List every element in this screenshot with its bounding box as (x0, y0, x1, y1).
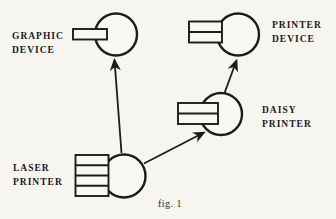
graphic-device-label: GRAPHIC DEVICE (12, 30, 64, 57)
graphic-device-port-bar (73, 29, 107, 40)
printer-device-label-line1: PRINTER (272, 19, 322, 33)
printer-device-label: PRINTER DEVICE (272, 19, 322, 46)
figure-canvas: GRAPHIC DEVICE PRINTER DEVICE DAISY PRIN… (0, 0, 336, 219)
graphic-device-label-line1: GRAPHIC (12, 30, 64, 44)
laser-printer-label-line1: LASER (13, 162, 63, 176)
laser-printer-label: LASER PRINTER (13, 162, 63, 189)
daisy-printer-label: DAISY PRINTER (262, 104, 312, 131)
edge-laser-to-daisy-arrow (144, 133, 204, 164)
daisy-printer-port-bars (178, 103, 218, 124)
daisy-printer-label-line1: DAISY (262, 104, 312, 118)
edge-daisy-to-printer-arrow (224, 61, 237, 95)
laser-printer-port-bars (76, 155, 109, 196)
nodes-group (95, 14, 259, 198)
figure-caption: fig. 1 (140, 198, 200, 209)
printer-device-node (217, 14, 259, 56)
graphic-device-label-line2: DEVICE (12, 44, 64, 58)
edge-laser-to-graphic-arrow (115, 60, 122, 153)
printer-device-label-line2: DEVICE (272, 33, 322, 47)
laser-printer-label-line2: PRINTER (13, 176, 63, 190)
daisy-printer-label-line2: PRINTER (262, 118, 312, 132)
ports-group (73, 22, 222, 197)
printer-device-port-bars (189, 22, 222, 43)
